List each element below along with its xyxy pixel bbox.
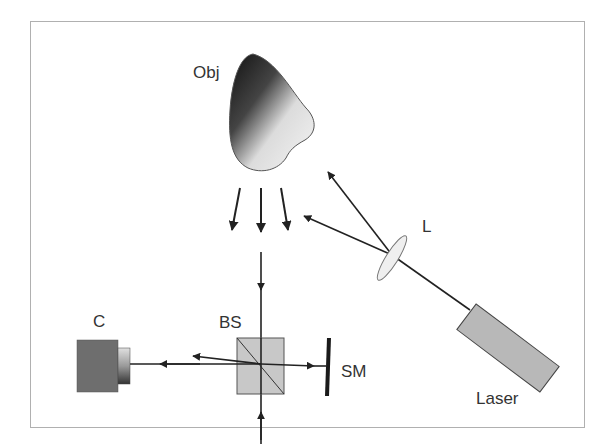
reference-beam-path	[130, 356, 326, 366]
lens-icon	[373, 233, 411, 283]
beamsplitter-label: BS	[219, 314, 242, 331]
object-label: Obj	[193, 64, 219, 81]
camera-label: C	[93, 313, 105, 330]
shift-mirror	[327, 338, 329, 396]
camera-icon	[77, 340, 130, 392]
object-shape	[230, 54, 315, 171]
illumination-beams	[304, 172, 470, 310]
optical-setup-diagram	[0, 0, 616, 444]
lens-label: L	[422, 218, 431, 235]
laser-source	[457, 304, 559, 392]
scattered-light-arrows	[232, 188, 288, 232]
beamsplitter-cube	[237, 338, 284, 394]
shift-mirror-label: SM	[341, 363, 367, 380]
laser-label: Laser	[476, 390, 519, 407]
